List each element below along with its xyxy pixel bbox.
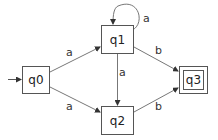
- edge-q1-q2: a: [118, 53, 126, 105]
- edge-q0-q2: a: [50, 87, 100, 113]
- edge-label-q1-q3: b: [155, 44, 162, 57]
- edge-q1-q3: b: [134, 44, 178, 71]
- edge-label-q2-q3: b: [155, 100, 162, 113]
- state-q1: q1: [102, 26, 134, 54]
- state-q2: q2: [102, 107, 134, 135]
- edge-label-q0-q2: a: [66, 100, 73, 113]
- edge-q0-q1: a: [50, 46, 100, 72]
- state-label-q0: q0: [28, 73, 43, 87]
- state-label-q2: q2: [110, 114, 125, 128]
- state-label-q1: q1: [110, 33, 125, 47]
- edge-label-q1-q1: a: [143, 12, 150, 25]
- edge-q2-q3: b: [134, 88, 178, 113]
- state-q0: q0: [23, 67, 50, 94]
- edge-label-q0-q1: a: [66, 46, 73, 59]
- state-q3-accepting: q3: [180, 67, 208, 94]
- edge-label-q1-q2: a: [119, 66, 126, 79]
- automaton-diagram: a a a a b b q0 q1 q2 q3: [0, 0, 218, 140]
- state-label-q3: q3: [186, 73, 201, 87]
- diagram-svg: a a a a b b q0 q1 q2 q3: [0, 0, 218, 140]
